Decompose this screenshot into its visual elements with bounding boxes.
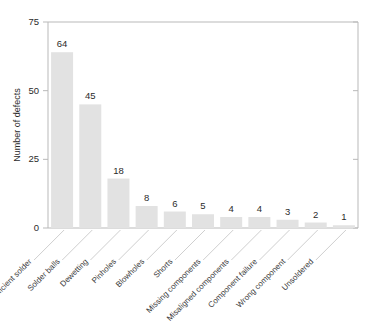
category-leader (119, 230, 149, 260)
bar (51, 52, 73, 228)
bar (333, 225, 355, 228)
bar (107, 179, 129, 228)
category-leader (34, 230, 64, 260)
category-leader (90, 230, 120, 260)
category-label: Wrong component (235, 257, 288, 310)
y-tick-label: 25 (28, 153, 39, 164)
y-tick-label: 50 (28, 85, 39, 96)
bar (164, 212, 186, 228)
category-label: Dewetting (58, 257, 90, 289)
bar-value-label: 3 (285, 206, 290, 217)
bar (136, 206, 158, 228)
bar (192, 214, 214, 228)
category-leader (231, 230, 261, 260)
bar-value-label: 45 (85, 90, 96, 101)
y-axis-title: Number of defects (12, 88, 22, 162)
bar (248, 217, 270, 228)
category-label: Shorts (152, 257, 175, 280)
bar-value-label: 1 (341, 211, 346, 222)
bar (79, 104, 101, 228)
chart-canvas: 0255075 Number of defects 64451886544321… (0, 0, 382, 336)
bar-value-label: 8 (144, 192, 149, 203)
category-label: Component failure (206, 257, 259, 310)
category-label: Blowholes (114, 257, 146, 289)
y-axis-label-text: Number of defects (12, 88, 22, 162)
defect-pareto-chart: 0255075 Number of defects 64451886544321… (0, 0, 382, 336)
bar (305, 223, 327, 228)
x-axis-category-labels: Insufficient solderSolder ballsDewetting… (0, 257, 315, 323)
category-leader (260, 230, 290, 260)
category-label: Pinholes (90, 257, 118, 285)
y-axis-ticks: 0255075 (28, 16, 358, 233)
bar-value-label: 2 (313, 209, 318, 220)
bar-value-label: 64 (57, 38, 68, 49)
bar (277, 220, 299, 228)
y-tick-label: 0 (34, 222, 39, 233)
bar-value-label: 18 (113, 165, 124, 176)
category-leader (203, 230, 233, 260)
bar (220, 217, 242, 228)
y-tick-label: 75 (28, 16, 39, 27)
category-label: Missing components (145, 257, 203, 315)
bar-value-label: 4 (229, 203, 234, 214)
category-leader (288, 230, 318, 260)
category-leader (147, 230, 177, 260)
category-label: Insufficient solder (0, 257, 34, 308)
category-leader-lines (34, 230, 346, 260)
category-leader (316, 230, 346, 260)
category-leader (175, 230, 205, 260)
bar-value-label: 6 (172, 198, 177, 209)
bar-value-label: 4 (257, 203, 262, 214)
bar-value-label: 5 (200, 200, 205, 211)
category-leader (62, 230, 92, 260)
